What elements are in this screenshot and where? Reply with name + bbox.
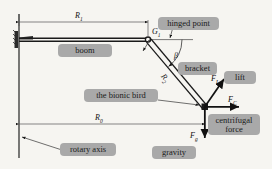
label-boom: boom bbox=[58, 44, 112, 57]
hinge-bracket-leader bbox=[143, 43, 148, 51]
r1-dimension bbox=[19, 14, 148, 36]
label-bionic-bird: the bionic bird bbox=[84, 89, 158, 102]
diagram-canvas: boom hinged point bracket lift the bioni… bbox=[0, 0, 272, 169]
label-bracket: bracket bbox=[178, 62, 217, 75]
bionic-bird-leader bbox=[158, 100, 199, 105]
label-rotary-axis: rotary axis bbox=[60, 143, 116, 156]
symbol-g1: G1 bbox=[152, 27, 161, 38]
symbol-gravity-force: Fg bbox=[190, 131, 198, 142]
label-hinged-point: hinged point bbox=[158, 17, 219, 30]
symbol-lift-force: FL bbox=[211, 74, 219, 85]
boom-beam bbox=[19, 38, 148, 41]
symbol-r0: R0 bbox=[95, 113, 103, 124]
label-centrifugal-force: centrifugal force bbox=[208, 114, 260, 135]
r0-dimension bbox=[19, 110, 205, 130]
label-gravity: gravity bbox=[152, 146, 196, 159]
symbol-r1: R1 bbox=[75, 11, 83, 22]
diagram-vector-layer bbox=[0, 0, 272, 169]
symbol-beta: β bbox=[174, 51, 178, 60]
label-lift: lift bbox=[224, 71, 256, 84]
rotary-axis-leader bbox=[22, 137, 62, 150]
wall-support-icon bbox=[13, 30, 33, 48]
symbol-centrifugal-force: FC bbox=[228, 95, 237, 106]
